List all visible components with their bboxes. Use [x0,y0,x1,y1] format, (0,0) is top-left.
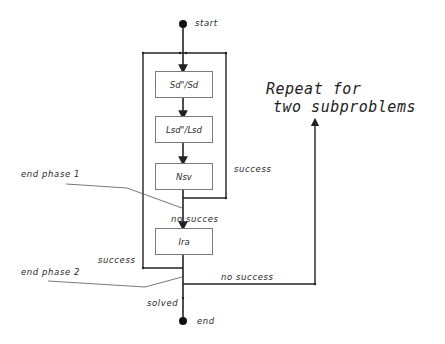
nsv-box: Nsv [155,163,213,190]
nsv-label: Nsv [176,172,192,182]
solved-label: solved [147,298,178,308]
start-node-dot [179,20,187,28]
sd-box: Sd"/Sd [155,71,213,98]
lsd-label: Lsd"/Lsd [166,125,202,135]
start-label: start [195,18,218,28]
nsv-no-success-label: no succes [171,214,219,224]
repeat-line-2: two subproblems [273,99,416,115]
end-phase-2-pointer [48,277,182,287]
ira-box: Ira [155,228,213,255]
nsv-success-label: success [234,164,271,174]
ira-label: Ira [178,237,189,247]
end-phase-1-label: end phase 1 [21,169,80,179]
end-phase-2-label: end phase 2 [21,267,80,277]
ira-no-success-label: no success [221,272,274,282]
end-label: end [197,316,215,326]
end-node-dot [179,317,187,325]
lsd-box: Lsd"/Lsd [155,116,213,143]
repeat-line-1: Repeat for [266,81,361,97]
sd-label: Sd"/Sd [170,80,198,90]
ira-success-label: success [98,255,135,265]
